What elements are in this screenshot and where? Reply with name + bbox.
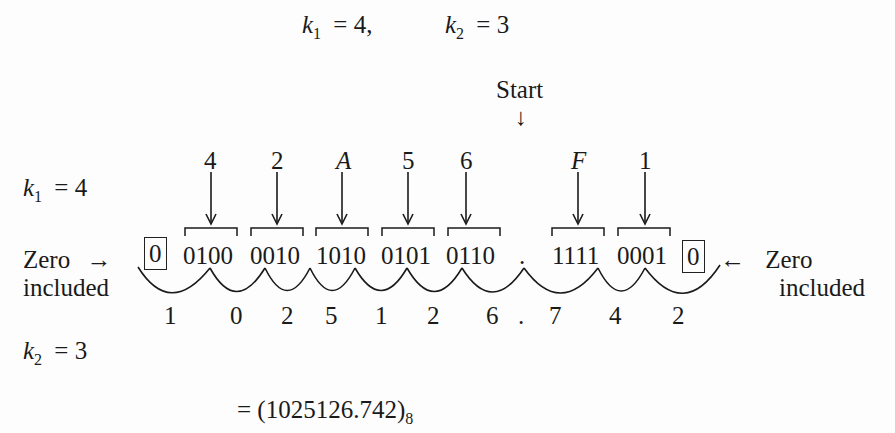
left-arrow-icon: ← (720, 246, 745, 273)
binary-group: 1111 (552, 243, 599, 268)
result-expression: = (1025126.742)8 (237, 397, 413, 422)
octal-digit: 7 (549, 303, 562, 328)
left-padding-zero: 0 (144, 237, 167, 270)
octal-digit: . (518, 303, 524, 328)
binary-group: 0110 (446, 243, 495, 268)
right-zero-note: ← Zero (720, 247, 812, 272)
octal-digit: 1 (375, 303, 388, 328)
right-padding-zero: 0 (682, 240, 705, 273)
right-zero-note-line2: included (779, 275, 865, 300)
octal-digit: 1 (164, 303, 177, 328)
left-zero-note-line2: included (23, 275, 109, 300)
binary-group: 1010 (316, 243, 366, 268)
octal-digit: 2 (672, 303, 685, 328)
octal-digit: 0 (230, 303, 243, 328)
octal-digit: 2 (427, 303, 440, 328)
octal-digit: 5 (325, 303, 338, 328)
octal-digit: 6 (486, 303, 499, 328)
binary-group: 0100 (183, 243, 233, 268)
binary-group: 0101 (381, 243, 431, 268)
radix-point: . (519, 243, 525, 268)
octal-group-arcs (138, 265, 720, 293)
group-brackets (185, 228, 670, 236)
hex-arrows (206, 172, 650, 224)
binary-group: 0010 (250, 243, 300, 268)
octal-digit: 4 (609, 303, 622, 328)
right-arrow-icon: → (86, 246, 111, 273)
octal-digit: 2 (281, 303, 294, 328)
binary-group: 0001 (617, 243, 667, 268)
diagram-lines (0, 0, 895, 433)
left-zero-note: Zero → (23, 247, 111, 272)
